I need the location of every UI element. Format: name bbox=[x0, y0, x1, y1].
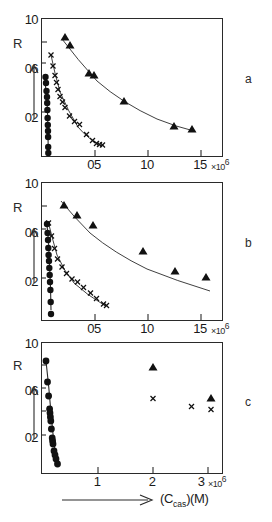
panel-b-plot-svg bbox=[42, 183, 222, 320]
panel-a-x-exponent: ×106 bbox=[211, 157, 230, 173]
panel-c: 10 06 02 R bbox=[0, 333, 272, 522]
panel-c-triangle-markers bbox=[149, 363, 216, 402]
panel-c-plot-svg bbox=[42, 343, 222, 473]
panel-c-x-exponent: ×106 bbox=[208, 474, 227, 490]
x-axis-title-subscript: cas bbox=[173, 499, 186, 509]
panel-c-plot-frame bbox=[41, 342, 223, 474]
panel-b: 10 06 02 R bbox=[0, 172, 272, 337]
panel-a-xtick-0: 05 bbox=[80, 157, 108, 172]
figure-container: 10 06 02 R bbox=[0, 0, 272, 522]
panel-a: 10 06 02 R bbox=[0, 0, 272, 175]
panel-b-plot-frame bbox=[41, 182, 223, 321]
panel-a-triangle-markers bbox=[61, 33, 197, 133]
panel-a-exp-sup: 6 bbox=[225, 157, 230, 167]
panel-c-exp-mult: ×10 bbox=[208, 479, 222, 489]
x-axis-title-open: (C bbox=[160, 491, 173, 506]
x-axis-title-tail: )(M) bbox=[186, 491, 208, 506]
panel-c-up-arrow-icon bbox=[28, 385, 40, 441]
x-axis-right-arrow-icon bbox=[60, 493, 155, 507]
panel-c-letter: c bbox=[245, 395, 251, 409]
panel-c-exp-sup: 6 bbox=[222, 474, 227, 484]
panel-b-ytick-0: 10 bbox=[12, 176, 38, 191]
panel-c-ytick-0: 10 bbox=[12, 336, 38, 351]
panel-c-y-axis-label: R bbox=[13, 358, 22, 373]
panel-c-xtick-1: 2 bbox=[138, 474, 166, 489]
panel-a-xtick-2: 15 bbox=[186, 157, 214, 172]
panel-a-plot-svg bbox=[42, 19, 222, 156]
panel-c-cross-markers bbox=[151, 396, 214, 412]
panel-a-xtick-1: 10 bbox=[133, 157, 161, 172]
panel-a-up-arrow-icon bbox=[28, 63, 40, 121]
panel-a-cross-markers bbox=[49, 53, 106, 148]
panel-a-exp-mult: ×10 bbox=[211, 162, 225, 172]
panel-c-circle-markers bbox=[43, 358, 61, 468]
panel-a-plot-frame bbox=[41, 18, 223, 157]
panel-a-letter: a bbox=[245, 72, 252, 86]
panel-a-circle-markers bbox=[42, 74, 51, 156]
panel-b-cross-markers bbox=[46, 221, 109, 309]
panel-b-exp-sup: 6 bbox=[225, 321, 230, 331]
panel-b-up-arrow-icon bbox=[28, 227, 40, 285]
x-axis-title: (Ccas)(M) bbox=[160, 491, 208, 509]
panel-b-triangle-markers bbox=[60, 201, 211, 281]
panel-a-ytick-0: 10 bbox=[12, 12, 38, 27]
panel-c-xtick-0: 1 bbox=[83, 474, 111, 489]
panel-b-y-axis-label: R bbox=[13, 200, 22, 215]
panel-b-letter: b bbox=[245, 236, 252, 250]
panel-a-y-axis-label: R bbox=[13, 36, 22, 51]
